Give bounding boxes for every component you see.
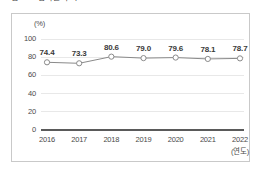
data-point-marker[interactable] [173, 55, 178, 60]
data-point-label: 79.0 [129, 44, 159, 53]
y-tick-label: 0 [14, 125, 36, 134]
data-point-marker[interactable] [44, 60, 49, 65]
y-tick-label: 100 [14, 34, 36, 43]
y-axis-unit-label: (%) [34, 19, 45, 28]
x-tick-label: 2016 [32, 135, 62, 144]
x-tick-label: 2018 [96, 135, 126, 144]
x-axis-unit-label: (연도) [223, 145, 257, 156]
y-tick-label: 60 [14, 70, 36, 79]
data-point-label: 80.6 [96, 43, 126, 52]
top-caption: 그림 Ⅲ-1 참여율 추이 [4, 0, 184, 2]
x-tick-label: 2021 [193, 135, 223, 144]
data-point-label: 79.6 [161, 44, 191, 53]
data-point-label: 78.7 [225, 44, 255, 53]
data-point-marker[interactable] [205, 56, 210, 61]
plot-area: (%) 100806040200 20162017201820192020202… [12, 14, 251, 163]
y-tick-label: 20 [14, 107, 36, 116]
x-tick-label: 2019 [129, 135, 159, 144]
data-point-marker[interactable] [141, 56, 146, 61]
screenshot-root: 그림 Ⅲ-1 참여율 추이 (%) 100806040200 201620172… [0, 0, 261, 172]
y-tick-label: 40 [14, 89, 36, 98]
data-point-label: 74.4 [32, 48, 62, 57]
x-tick-label: 2017 [64, 135, 94, 144]
chart-frame: (%) 100806040200 20162017201820192020202… [11, 13, 250, 162]
x-tick-label: 2020 [161, 135, 191, 144]
data-point-label: 73.3 [64, 49, 94, 58]
x-tick-label: 2022 [225, 135, 255, 144]
data-point-label: 78.1 [193, 45, 223, 54]
data-point-marker[interactable] [237, 56, 242, 61]
data-point-marker[interactable] [109, 54, 114, 59]
data-point-marker[interactable] [77, 61, 82, 66]
